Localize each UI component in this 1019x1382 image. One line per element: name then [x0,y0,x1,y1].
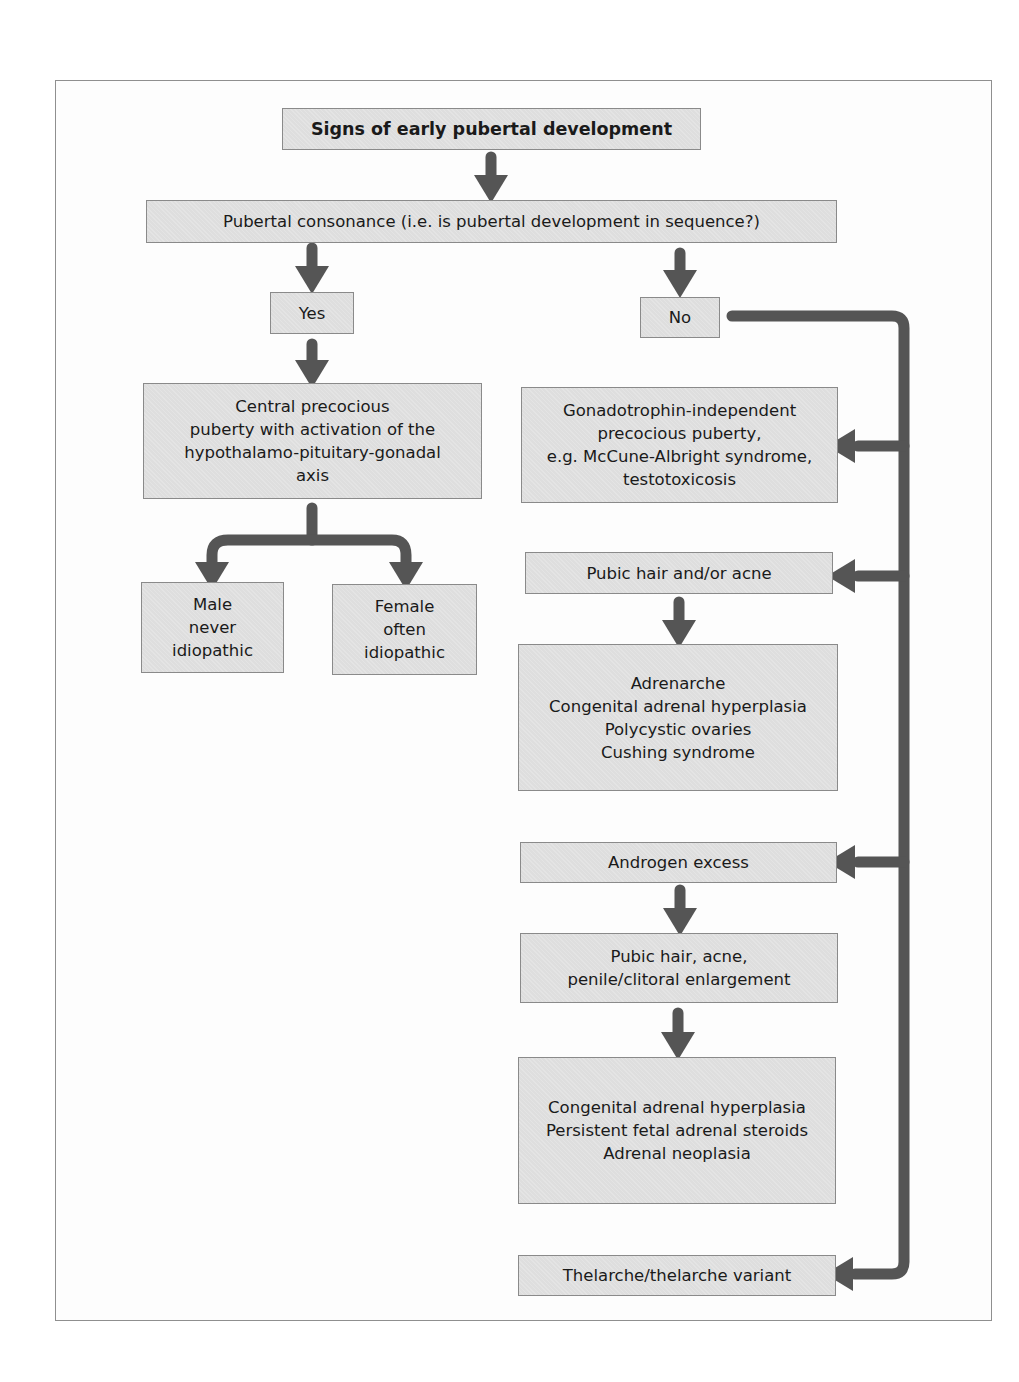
title-box: Signs of early pubertal development [282,108,701,150]
female-box: Female often idiopathic [332,584,477,675]
no-box: No [640,297,720,338]
pubic-hair-box: Pubic hair and/or acne [525,552,833,594]
male-box: Male never idiopathic [141,582,284,673]
yes-box: Yes [270,292,354,334]
central-precocious-box: Central precocious puberty with activati… [143,383,482,499]
pubic-hair-causes-box: Adrenarche Congenital adrenal hyperplasi… [518,644,838,791]
thelarche-box: Thelarche/thelarche variant [518,1255,836,1296]
androgen-causes-box: Congenital adrenal hyperplasia Persisten… [518,1057,836,1204]
question-box: Pubertal consonance (i.e. is pubertal de… [146,200,837,243]
androgen-signs-box: Pubic hair, acne, penile/clitoral enlarg… [520,933,838,1003]
gonadotrophin-independent-box: Gonadotrophin-independent precocious pub… [521,387,838,503]
androgen-excess-box: Androgen excess [520,842,837,883]
